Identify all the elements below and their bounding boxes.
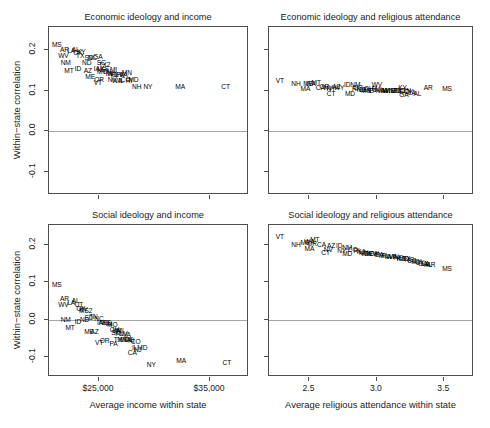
- x-tick-mark: [376, 377, 377, 381]
- x-tick-label: 3.5: [437, 384, 449, 393]
- data-point-label: MS: [442, 266, 452, 273]
- y-tick-mark: [264, 356, 268, 357]
- plot-area-bottom-right: VTNHMEWAMTORMACAAZNVCTIDNMNYMDCORINJMNWY…: [268, 224, 473, 376]
- x-tick-mark: [443, 377, 444, 381]
- x-tick-label: 2.5: [302, 384, 314, 393]
- y-tick-mark: [264, 319, 268, 320]
- data-point-label: MA: [305, 246, 315, 253]
- data-point-label: CT: [321, 250, 330, 257]
- y-tick-mark: [264, 281, 268, 282]
- data-point-label: AR: [426, 261, 435, 268]
- x-tick-mark: [308, 377, 309, 381]
- panel-bottom-right: Social ideology and religious attendance…: [0, 0, 490, 428]
- x-axis-title-bottom-right: Average religious attendance within stat…: [268, 400, 473, 410]
- data-point-label: NH: [291, 241, 300, 248]
- figure-canvas: Economic ideology and incomeMSARLAALWVOK…: [0, 0, 490, 428]
- x-tick-label: 3.0: [370, 384, 382, 393]
- y-tick-mark: [264, 244, 268, 245]
- data-point-label: VT: [276, 234, 284, 241]
- zero-reference-line: [269, 320, 472, 321]
- panel-title-bottom-right: Social ideology and religious attendance: [268, 210, 473, 220]
